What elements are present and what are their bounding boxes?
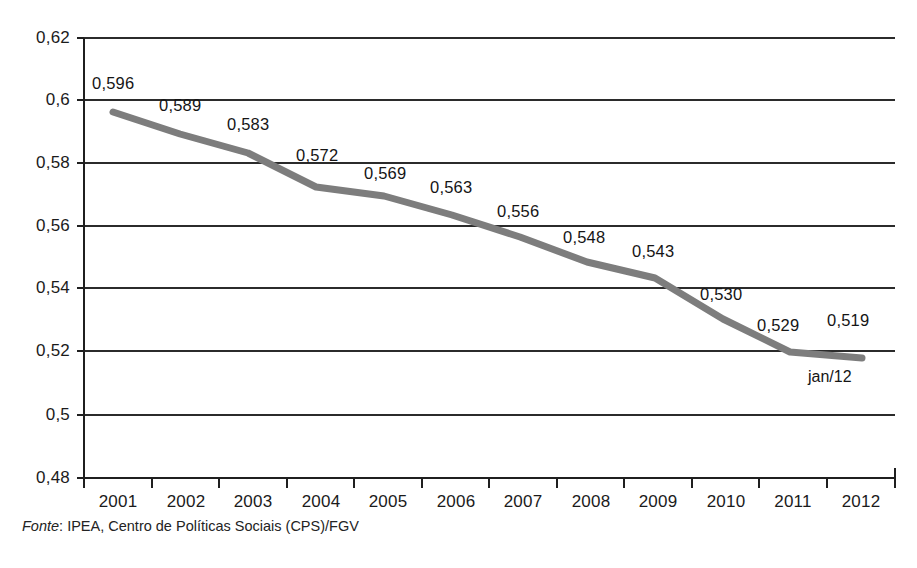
source-separator: :: [59, 518, 67, 534]
data-label-2005: 0,569: [364, 164, 406, 183]
y-tick-label-0: 0,62: [14, 28, 70, 48]
y-tick-label-2: 0,58: [14, 153, 70, 173]
x-tick-label-2008: 2008: [557, 492, 625, 512]
annotation-jan12: jan/12: [808, 368, 852, 386]
x-tick-label-2005: 2005: [354, 492, 422, 512]
data-label-2011: 0,529: [757, 316, 799, 335]
x-axis-ticks: [84, 478, 895, 488]
x-tick-label-2012: 2012: [827, 492, 895, 512]
x-tick-label-2003: 2003: [219, 492, 287, 512]
source-prefix: Fonte: [22, 518, 59, 534]
data-label-2009: 0,543: [632, 242, 674, 261]
y-tick-label-6: 0,5: [14, 405, 70, 425]
data-label-2004: 0,572: [296, 146, 338, 165]
x-tick-label-2010: 2010: [692, 492, 760, 512]
x-tick-label-2004: 2004: [287, 492, 355, 512]
data-label-2003: 0,583: [227, 115, 269, 134]
source-note: Fonte: IPEA, Centro de Políticas Sociais…: [22, 518, 359, 534]
x-tick-label-2007: 2007: [489, 492, 557, 512]
source-text: IPEA, Centro de Políticas Sociais (CPS)/…: [67, 518, 359, 534]
data-label-2008: 0,548: [563, 228, 605, 247]
y-axis-ticks: [77, 38, 84, 478]
chart-figure: 0,62 0,6 0,58 0,56 0,54 0,52 0,5 0,48 20…: [0, 0, 917, 568]
y-tick-label-1: 0,6: [14, 90, 70, 110]
data-label-2006: 0,563: [430, 178, 472, 197]
data-label-2012: 0,519: [827, 311, 869, 330]
chart-plot-area: [0, 0, 917, 568]
x-tick-label-2011: 2011: [759, 492, 827, 512]
y-tick-label-5: 0,52: [14, 341, 70, 361]
y-tick-label-7: 0,48: [14, 468, 70, 488]
data-label-2010: 0,530: [700, 285, 742, 304]
x-tick-label-2002: 2002: [152, 492, 220, 512]
data-label-2001: 0,596: [92, 74, 134, 93]
x-tick-label-2009: 2009: [624, 492, 692, 512]
data-label-2007: 0,556: [497, 202, 539, 221]
x-tick-label-2006: 2006: [422, 492, 490, 512]
x-tick-label-2001: 2001: [84, 492, 152, 512]
data-series-line: [113, 112, 862, 358]
y-tick-label-4: 0,54: [14, 278, 70, 298]
data-label-2002: 0,589: [159, 96, 201, 115]
y-tick-label-3: 0,56: [14, 216, 70, 236]
